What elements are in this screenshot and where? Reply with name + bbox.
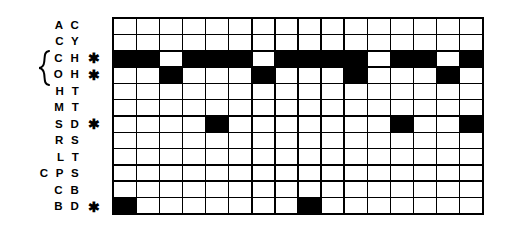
matrix-cell	[437, 84, 459, 99]
matrix-cell	[414, 133, 436, 148]
matrix-cell	[460, 84, 482, 99]
matrix-cell	[460, 19, 482, 34]
matrix-cell	[299, 182, 321, 197]
matrix-cell	[183, 19, 205, 34]
matrix-cell	[391, 198, 413, 213]
matrix-cell	[183, 68, 205, 83]
row-label-text: C Y	[55, 36, 81, 48]
matrix-cell	[183, 35, 205, 50]
matrix-cell	[368, 117, 390, 132]
matrix-cell	[437, 182, 459, 197]
matrix-cell	[183, 182, 205, 197]
matrix-cell	[206, 68, 228, 83]
matrix-cell	[414, 166, 436, 181]
matrix-cell	[322, 19, 344, 34]
matrix-cell	[322, 84, 344, 99]
matrix-cell	[299, 117, 321, 132]
row-star-spacer	[84, 134, 104, 148]
row-label-text: R S	[55, 135, 81, 147]
matrix-cell	[460, 182, 482, 197]
matrix-cell	[299, 133, 321, 148]
matrix-cell	[253, 68, 275, 83]
row-star-marker-icon: ✱	[84, 51, 104, 65]
matrix-cell	[160, 133, 182, 148]
matrix-cell	[414, 100, 436, 115]
matrix-cell	[253, 35, 275, 50]
matrix-cell	[276, 100, 298, 115]
matrix-cell	[183, 166, 205, 181]
matrix-cell	[368, 166, 390, 181]
row-label-text: H T	[56, 86, 81, 98]
matrix-cell	[414, 182, 436, 197]
matrix-cell	[414, 68, 436, 83]
row-label-text: M T	[54, 102, 81, 114]
row-label-4: O H✱	[0, 67, 108, 84]
row-label-text: A C	[55, 20, 81, 32]
matrix-cell	[206, 166, 228, 181]
matrix-cell	[368, 133, 390, 148]
matrix-cell	[137, 100, 159, 115]
matrix-cell	[391, 84, 413, 99]
matrix-cell	[368, 68, 390, 83]
matrix-cell	[206, 133, 228, 148]
matrix-cell	[137, 117, 159, 132]
matrix-cell	[206, 182, 228, 197]
matrix-cell	[160, 182, 182, 197]
matrix-cell	[437, 166, 459, 181]
matrix-cell	[183, 100, 205, 115]
row-label-10: C P S	[0, 166, 108, 183]
row-star-marker-icon: ✱	[84, 200, 104, 214]
row-label-7: S D✱	[0, 116, 108, 133]
matrix-cell	[414, 52, 436, 67]
matrix-cell	[114, 133, 136, 148]
matrix-cell	[322, 35, 344, 50]
matrix-cell	[414, 35, 436, 50]
matrix-cell	[253, 100, 275, 115]
row-label-text: C P S	[40, 168, 81, 180]
matrix-cell	[276, 35, 298, 50]
matrix-cell	[137, 52, 159, 67]
row-label-text: L T	[57, 152, 81, 164]
matrix-cell	[137, 182, 159, 197]
row-star-spacer	[84, 150, 104, 164]
matrix-cell	[460, 52, 482, 67]
matrix-cell	[345, 35, 367, 50]
matrix-cell	[460, 198, 482, 213]
matrix-cell	[460, 117, 482, 132]
matrix-cell	[391, 182, 413, 197]
matrix-cell	[206, 35, 228, 50]
matrix-cell	[160, 117, 182, 132]
matrix-cell	[391, 166, 413, 181]
matrix-cell	[345, 19, 367, 34]
matrix-cell	[345, 100, 367, 115]
matrix-cell	[229, 19, 251, 34]
matrix-cell	[183, 52, 205, 67]
matrix-cell	[368, 52, 390, 67]
matrix-cell	[437, 149, 459, 164]
matrix-cell	[253, 198, 275, 213]
matrix-cell	[160, 52, 182, 67]
matrix-cell	[345, 52, 367, 67]
row-star-spacer	[84, 167, 104, 181]
matrix-cell	[114, 35, 136, 50]
matrix-cell	[183, 84, 205, 99]
matrix-cell	[368, 149, 390, 164]
matrix-cell	[322, 182, 344, 197]
matrix-cell	[229, 166, 251, 181]
matrix-cell	[253, 166, 275, 181]
matrix-cell	[114, 100, 136, 115]
matrix-cell	[460, 35, 482, 50]
row-label-text: C B	[54, 185, 81, 197]
matrix-cell	[160, 198, 182, 213]
matrix-cell	[253, 19, 275, 34]
matrix-cell	[345, 166, 367, 181]
matrix-cell	[206, 19, 228, 34]
matrix-cell	[322, 100, 344, 115]
matrix-cell	[322, 149, 344, 164]
matrix-cell	[391, 117, 413, 132]
matrix-cell	[391, 19, 413, 34]
matrix-cell	[345, 68, 367, 83]
matrix-cell	[229, 117, 251, 132]
matrix-cell	[460, 149, 482, 164]
matrix-cell	[437, 68, 459, 83]
